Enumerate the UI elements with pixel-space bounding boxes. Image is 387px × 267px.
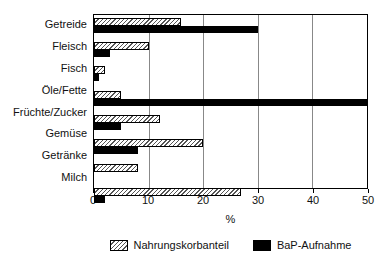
bar-rows xyxy=(94,15,367,188)
category-label: Getränke xyxy=(0,145,87,167)
legend-swatch-hatched xyxy=(110,240,128,251)
bar-row xyxy=(94,164,367,186)
category-label: Milch xyxy=(0,167,87,189)
category-label: Öle/Fette xyxy=(0,80,87,102)
bar-nahrungskorbanteil xyxy=(94,42,149,50)
bar-bap-aufnahme xyxy=(94,26,258,33)
bar-row xyxy=(94,18,367,40)
category-label: Gemüse xyxy=(0,123,87,145)
category-label: Fisch xyxy=(0,58,87,80)
x-tick-mark xyxy=(368,189,369,193)
bar-row xyxy=(94,91,367,113)
bar-row xyxy=(94,139,367,161)
category-label: Fleisch xyxy=(0,36,87,58)
bar-nahrungskorbanteil xyxy=(94,115,160,123)
bar-nahrungskorbanteil xyxy=(94,91,121,99)
bar-row xyxy=(94,188,367,210)
bar-nahrungskorbanteil xyxy=(94,139,203,147)
bar-bap-aufnahme xyxy=(94,196,105,203)
bar-bap-aufnahme xyxy=(94,147,138,154)
bar-row xyxy=(94,115,367,137)
bar-bap-aufnahme xyxy=(94,50,110,57)
legend-item-nahrungskorbanteil: Nahrungskorbanteil xyxy=(110,239,229,251)
plot-area xyxy=(93,14,368,189)
category-label: Früchte/Zucker xyxy=(0,102,87,124)
bar-row xyxy=(94,66,367,88)
category-labels: GetreideFleischFischÖle/FetteFrüchte/Zuc… xyxy=(0,14,87,189)
category-label: Getreide xyxy=(0,14,87,36)
bar-bap-aufnahme xyxy=(94,74,99,81)
legend-label-bap-aufnahme: BaP-Aufnahme xyxy=(277,239,352,251)
bar-row xyxy=(94,42,367,64)
legend-item-bap-aufnahme: BaP-Aufnahme xyxy=(253,239,352,251)
x-axis-title: % xyxy=(93,213,368,225)
legend-label-nahrungskorbanteil: Nahrungskorbanteil xyxy=(134,239,229,251)
bar-nahrungskorbanteil xyxy=(94,66,105,74)
legend: Nahrungskorbanteil BaP-Aufnahme xyxy=(93,238,368,252)
bar-nahrungskorbanteil xyxy=(94,164,138,172)
legend-swatch-solid xyxy=(253,240,271,251)
bar-nahrungskorbanteil xyxy=(94,188,241,196)
bar-bap-aufnahme xyxy=(94,123,121,130)
bar-bap-aufnahme xyxy=(94,99,367,106)
bar-nahrungskorbanteil xyxy=(94,18,181,26)
bar-chart-figure: GetreideFleischFischÖle/FetteFrüchte/Zuc… xyxy=(0,0,387,267)
